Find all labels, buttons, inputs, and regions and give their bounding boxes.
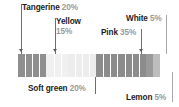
bar-segment-white <box>146 54 153 77</box>
callout-name-white: White <box>126 14 148 23</box>
stripe-divider <box>132 54 133 77</box>
leader-line-white <box>166 15 167 54</box>
callout-label-lemon: Lemon 5% <box>126 93 166 103</box>
bar-segment-pink <box>96 54 146 77</box>
callout-percent-yellow: 15% <box>56 27 81 37</box>
leader-arrow-pink <box>139 49 143 52</box>
stripe-divider <box>32 54 33 77</box>
stripe-divider <box>117 54 118 77</box>
stripe-divider <box>125 54 126 77</box>
stripe-divider <box>61 54 62 77</box>
callout-label-tangerine: Tangerine 20% <box>22 3 78 13</box>
stripe-divider <box>110 54 111 77</box>
stripe-divider <box>82 54 83 77</box>
leader-line-lemon <box>172 72 173 102</box>
bar-segment-yellow <box>46 54 67 77</box>
leader-arrow-yellow <box>53 49 57 52</box>
stripe-divider <box>103 54 104 77</box>
callout-label-pink: Pink 35% <box>101 28 136 38</box>
stripe-divider <box>39 54 40 77</box>
callout-percent-lemon: 5% <box>155 93 167 102</box>
leader-line-soft-green <box>95 77 96 94</box>
stripe-divider <box>89 54 90 77</box>
stripe-divider <box>54 54 55 77</box>
callout-label-soft-green: Soft green 20% <box>28 84 86 94</box>
stacked-bar-band <box>18 54 160 77</box>
segment-stripes <box>68 54 96 77</box>
leader-arrow-tangerine <box>19 49 23 52</box>
stripe-divider <box>75 54 76 77</box>
color-proportion-chart: Tangerine 20% Yellow 15% White 5% Pink 3… <box>0 0 179 107</box>
segment-stripes <box>146 54 153 77</box>
segment-stripes <box>96 54 146 77</box>
segment-stripes <box>46 54 67 77</box>
callout-name-pink: Pink <box>101 28 118 37</box>
segment-stripes <box>18 54 46 77</box>
callout-percent-pink: 35% <box>120 28 136 37</box>
callout-label-yellow: Yellow 15% <box>56 17 81 36</box>
stripe-divider <box>139 54 140 77</box>
bar-segment-soft-green <box>68 54 96 77</box>
stripe-divider <box>25 54 26 77</box>
callout-name-lemon: Lemon <box>126 93 152 102</box>
callout-percent-white: 5% <box>150 14 162 23</box>
callout-name-soft-green: Soft green <box>28 84 68 93</box>
segment-stripes <box>153 54 160 77</box>
leader-line-tangerine <box>21 4 22 54</box>
callout-name-tangerine: Tangerine <box>22 3 60 12</box>
callout-label-white: White 5% <box>126 14 162 24</box>
bar-segment-tangerine <box>18 54 46 77</box>
bar-segment-lemon <box>153 54 160 77</box>
callout-percent-soft-green: 20% <box>70 84 86 93</box>
callout-percent-tangerine: 20% <box>62 3 78 12</box>
callout-name-yellow: Yellow <box>56 17 81 27</box>
